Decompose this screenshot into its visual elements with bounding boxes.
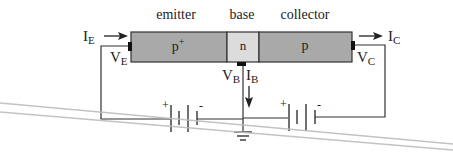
- collector-title: collector: [281, 7, 330, 22]
- base-voltage-label: VB: [222, 67, 240, 85]
- right-battery-minus: -: [317, 98, 321, 112]
- left-battery-plus: +: [162, 98, 169, 112]
- emitter-title: emitter: [156, 7, 196, 22]
- base-current-label: IB: [246, 67, 258, 85]
- base-title: base: [230, 7, 255, 22]
- collector-current-label: IC: [388, 28, 400, 46]
- pnp-transistor-diagram: emitter base collector p+ n p IE IC VE V…: [0, 0, 453, 152]
- collector-contact: [351, 41, 355, 50]
- base-doping: n: [240, 38, 247, 53]
- collector-voltage-label: VC: [357, 49, 375, 67]
- emitter-voltage-label: VE: [110, 49, 128, 67]
- emitter-contact: [128, 42, 132, 51]
- right-battery: [289, 104, 315, 131]
- left-battery-minus: -: [199, 99, 203, 113]
- collector-doping: p: [302, 38, 309, 53]
- base-contact: [237, 62, 246, 66]
- emitter-current-label: IE: [83, 28, 95, 46]
- right-battery-plus: +: [280, 97, 287, 111]
